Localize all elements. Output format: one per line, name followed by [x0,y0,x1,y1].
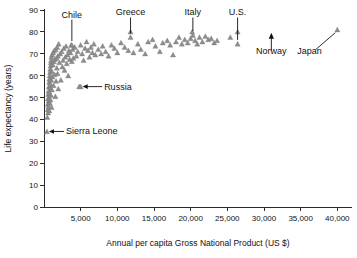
y-tick-label: 40 [29,115,38,124]
data-point-marker [56,41,61,46]
plot-canvas: 01020304050607080905,00010,00015,00020,0… [0,0,357,258]
data-point-marker [118,40,123,45]
y-tick-label: 10 [29,181,38,190]
data-point-marker [109,42,114,47]
data-point-marker [143,51,148,56]
data-point-marker [100,44,105,49]
y-tick-label: 90 [29,6,38,15]
data-point-marker [96,47,101,52]
data-point-marker [115,50,120,55]
annotation-label: Japan [297,46,322,56]
data-point-marker [131,50,136,55]
data-point-marker [228,35,233,40]
scatter-plot-figure: 01020304050607080905,00010,00015,00020,0… [0,0,357,258]
data-point-marker [135,41,140,46]
data-point-marker [200,39,205,44]
annotation-label: Italy [185,7,202,17]
data-point-marker [209,36,214,41]
data-point-marker [335,27,340,32]
data-point-marker [179,41,184,46]
x-tick-label: 5,000 [71,214,92,223]
y-tick-label: 0 [34,203,39,212]
data-point-marker [58,77,63,82]
data-point-marker [153,44,158,49]
data-point-marker [190,29,195,34]
data-point-marker [66,73,71,78]
data-point-marker [173,39,178,44]
data-point-marker [170,52,175,57]
data-point-marker [91,41,96,46]
annotation-arrowhead [83,84,88,89]
x-tick-label: 30,000 [252,214,277,223]
data-point-marker [150,37,155,42]
data-point-marker [106,53,111,58]
annotation-label: Greece [116,7,146,17]
x-tick-label: 25,000 [215,214,240,223]
annotation-arrowhead [49,129,54,134]
data-point-marker [75,49,80,54]
data-point-marker [56,86,61,91]
data-point-marker [214,38,219,43]
data-point-marker [84,39,89,44]
y-tick-label: 60 [29,72,38,81]
x-tick-label: 35,000 [288,214,313,223]
x-tick-label: 10,000 [105,214,130,223]
data-point-marker [165,38,170,43]
y-tick-label: 70 [29,50,38,59]
annotation-label: Russia [104,82,132,92]
x-axis-title: Annual per capita Gross National Product… [106,238,289,248]
annotation-arrowhead [269,33,274,39]
y-tick-label: 30 [29,137,38,146]
data-point-marker [138,47,143,52]
annotation-label: Sierra Leone [66,126,118,136]
data-point-marker [235,41,240,46]
y-tick-label: 50 [29,94,38,103]
data-point-marker [182,37,187,42]
data-point-marker [197,35,202,40]
data-point-marker [54,79,59,84]
data-point-marker [45,115,50,120]
data-point-marker [87,54,92,59]
annotation-label: Norway [256,46,287,56]
data-point-marker [53,94,58,99]
data-point-marker [122,45,127,50]
y-tick-label: 80 [29,28,38,37]
y-axis-title: Life expectancy (years) [3,64,13,152]
annotation-label: U.S. [229,7,247,17]
data-point-marker [81,58,86,63]
x-tick-label: 40,000 [325,214,350,223]
data-point-marker [74,53,79,58]
y-tick-label: 20 [29,159,38,168]
annotation-label: Chile [62,10,83,20]
data-point-marker [203,34,208,39]
data-point-marker [103,49,108,54]
data-point-marker [128,35,133,40]
x-tick-label: 15,000 [142,214,167,223]
data-point-marker [55,71,60,76]
data-point-marker [168,42,173,47]
data-point-marker [63,44,68,49]
data-point-marker [157,49,162,54]
data-point-marker [44,129,49,134]
x-tick-label: 20,000 [178,214,203,223]
data-point-marker [176,35,181,40]
data-point-marker [78,42,83,47]
